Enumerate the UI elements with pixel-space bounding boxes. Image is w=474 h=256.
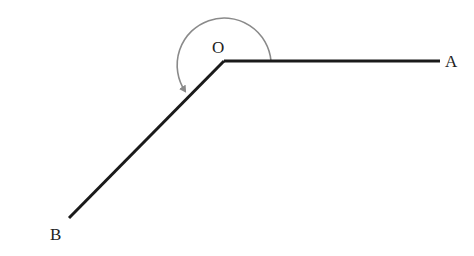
label-b: B (50, 225, 61, 244)
ray-ob (69, 61, 224, 218)
angle-diagram: O A B (0, 0, 474, 256)
label-o: O (212, 38, 224, 57)
label-a: A (445, 52, 458, 71)
